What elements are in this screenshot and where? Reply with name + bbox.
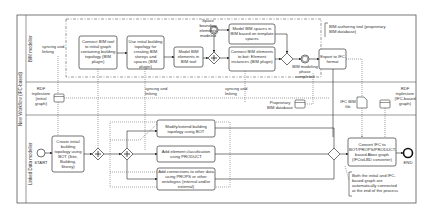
task-add-connections[interactable]: Add connections to other data using PROP… [158,169,214,189]
task-convert-ifc[interactable]: Convert IFC to BOT/PROPS/PRODUCT-based A… [349,142,395,162]
proprietary-db-label: Proprietary BIM database [266,100,294,110]
task-export-ifc[interactable]: Export to IFC format [320,54,345,64]
syncing-label-2: syncing and linking [145,86,169,96]
rdf-ifc-graph-label: RDF triplestore (IFC-based graph) [394,86,416,106]
task-use-initial-topology[interactable]: Use initial building topology for creati… [128,39,163,69]
task-add-classification[interactable]: Add element classification using PRODUCT [158,149,214,159]
ifc-file-label: IFC BIM file [340,99,356,109]
task-model-bim-spaces[interactable]: Model BIM spaces in BIM based on templat… [230,26,274,41]
task-modify-topology[interactable]: Modify/extend building topology using BO… [158,124,214,134]
space-bounding-event-label: Space bounding elements modeled [196,18,220,38]
task-model-bim-elements[interactable]: Model BIM elements in BIM tool [175,49,202,64]
lane-label-bim-modeller: BIM modeller [28,35,33,62]
final-note-annotation: Both the initial and IFC-based graph are… [352,173,400,193]
task-connect-bim-elements[interactable]: Connect BIM elements to bot: Element ins… [230,49,274,64]
rdf-initial-graph-label: RDF triplestore (initial graph) [30,86,52,106]
pool-label: New Workflow (IFC-based) [18,72,23,126]
start-event[interactable]: START [32,160,50,165]
task-create-topology[interactable]: Create initial building topology using B… [53,139,83,169]
bim-tool-annotation: BIM authoring tool (proprietary BIM data… [329,24,389,34]
end-event[interactable]: END [400,160,416,165]
task-connect-bim-tool[interactable]: Connect BIM tool to initial graph contai… [80,39,116,64]
syncing-label-3: syncing and linking [225,86,249,96]
syncing-label-1: syncing and linking [42,44,66,54]
bim-phase-completed-label: BIM modeling phase completed [292,64,318,79]
